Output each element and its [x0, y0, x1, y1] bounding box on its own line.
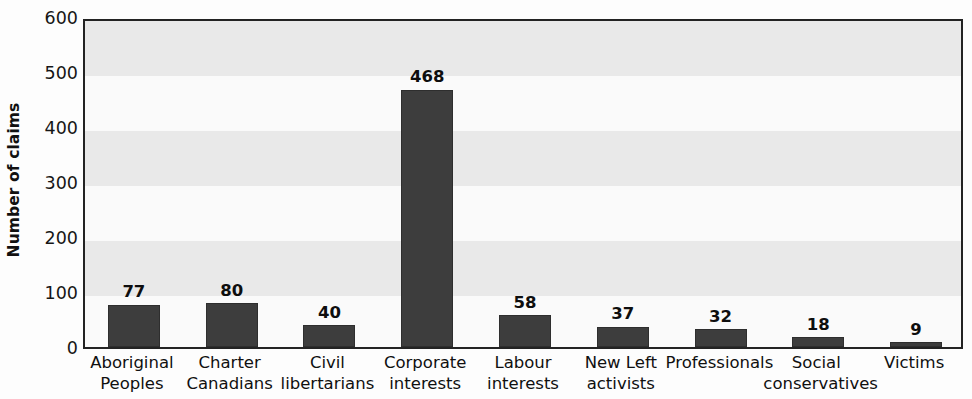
bar-value-label: 77: [122, 284, 145, 301]
bar-value-label: 37: [611, 306, 634, 323]
bar-value-label: 468: [410, 69, 444, 86]
plot-area: 778040468583732189: [83, 19, 963, 349]
x-category-label-line2: activists: [568, 373, 674, 394]
bar-group: 37: [574, 21, 672, 347]
y-tick-label: 200: [32, 230, 78, 248]
y-axis-title-text: Number of claims: [5, 103, 23, 258]
bar-group: 32: [672, 21, 770, 347]
x-category-label: New Leftactivists: [568, 352, 674, 394]
bar-value-label: 18: [807, 317, 830, 334]
bar-group: 18: [769, 21, 867, 347]
x-category-label-line2: interests: [372, 373, 478, 394]
y-tick-label: 600: [32, 10, 78, 28]
y-tick-label: 500: [32, 65, 78, 83]
bar-group: 40: [281, 21, 379, 347]
y-axis-title: Number of claims: [0, 0, 28, 360]
x-category-label-line1: Social: [792, 353, 841, 372]
x-category-label: Labourinterests: [470, 352, 576, 394]
bar-group: 77: [85, 21, 183, 347]
x-category-label-line1: Labour: [494, 353, 551, 372]
bar-value-label: 32: [709, 309, 732, 326]
bar-chart: Number of claims 0100200300400500600 778…: [0, 0, 972, 399]
x-category-label-line1: Professionals: [666, 353, 774, 372]
y-tick-label: 100: [32, 285, 78, 303]
x-category-label-line2: interests: [470, 373, 576, 394]
bar-value-label: 80: [220, 283, 243, 300]
bar-value-label: 40: [318, 305, 341, 322]
bar[interactable]: [499, 315, 551, 347]
bar-group: 58: [476, 21, 574, 347]
x-category-label-line1: New Left: [585, 353, 657, 372]
bars-layer: 778040468583732189: [85, 21, 961, 347]
x-category-label-line1: Aboriginal: [90, 353, 173, 372]
bar-value-label: 9: [910, 322, 921, 339]
x-category-label: AboriginalPeoples: [79, 352, 185, 394]
x-category-label-line2: Canadians: [177, 373, 283, 394]
x-category-label: CharterCanadians: [177, 352, 283, 394]
x-category-label: Victims: [861, 352, 967, 373]
bar-group: 9: [867, 21, 965, 347]
bar[interactable]: [695, 329, 747, 347]
x-category-label-line2: Peoples: [79, 373, 185, 394]
bar-value-label: 58: [514, 295, 537, 312]
x-category-label: Socialconservatives: [763, 352, 869, 394]
x-axis-category-labels: AboriginalPeoplesCharterCanadiansCivilli…: [83, 352, 963, 399]
x-category-label: Professionals: [666, 352, 772, 373]
bar[interactable]: [206, 303, 258, 347]
y-tick-label: 0: [32, 340, 78, 358]
y-tick-label: 400: [32, 120, 78, 138]
x-category-label-line1: Charter: [199, 353, 261, 372]
x-category-label: Corporateinterests: [372, 352, 478, 394]
bar[interactable]: [401, 90, 453, 347]
bar-group: 80: [183, 21, 281, 347]
x-category-label-line1: Civil: [310, 353, 345, 372]
bar[interactable]: [792, 337, 844, 347]
bar[interactable]: [597, 327, 649, 347]
x-category-label-line2: libertarians: [274, 373, 380, 394]
x-category-label-line1: Victims: [884, 353, 944, 372]
bar-group: 468: [378, 21, 476, 347]
y-axis-tick-labels: 0100200300400500600: [30, 0, 78, 399]
bar[interactable]: [890, 342, 942, 347]
bar[interactable]: [108, 305, 160, 347]
x-category-label-line1: Corporate: [384, 353, 466, 372]
y-tick-label: 300: [32, 175, 78, 193]
bar[interactable]: [303, 325, 355, 347]
x-category-label: Civillibertarians: [274, 352, 380, 394]
x-category-label-line2: conservatives: [763, 373, 869, 394]
